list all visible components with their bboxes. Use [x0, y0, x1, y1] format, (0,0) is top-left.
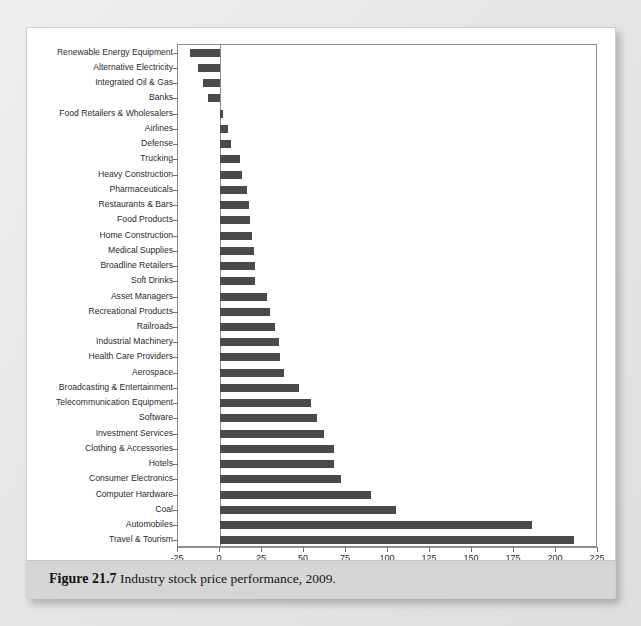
category-label: Recreational Products [88, 306, 173, 316]
category-tick [173, 236, 178, 237]
category-label: Banks [149, 92, 173, 102]
category-label: Computer Hardware [96, 489, 173, 499]
bar-telecommunication-equipment [220, 399, 311, 407]
category-tick [173, 53, 178, 54]
category-label: Broadcasting & Entertainment [59, 382, 173, 392]
x-axis-tick [597, 547, 598, 552]
category-label: Broadline Retailers [100, 260, 173, 270]
category-label: Airlines [145, 123, 173, 133]
category-label: Integrated Oil & Gas [95, 77, 173, 87]
category-label: Hotels [149, 458, 173, 468]
figure-caption-text: Industry stock price performance, 2009. [120, 571, 336, 586]
category-label: Pharmaceuticals [109, 184, 173, 194]
category-tick [173, 297, 178, 298]
category-tick [173, 175, 178, 176]
category-label: Travel & Tourism [109, 534, 173, 544]
caption-band: Figure 21.7 Industry stock price perform… [27, 560, 615, 599]
bar-defense [220, 140, 231, 148]
bar-broadline-retailers [220, 262, 255, 270]
category-label: Railroads [137, 321, 173, 331]
bar-industrial-machinery [220, 338, 279, 346]
category-label: Health Care Providers [88, 351, 173, 361]
x-axis-tick [555, 547, 556, 552]
category-tick [173, 98, 178, 99]
figure-sheet: the performance of the market sectors in… [26, 27, 616, 599]
bar-food-products [220, 216, 250, 224]
category-tick [173, 342, 178, 343]
category-label: Home Construction [99, 230, 173, 240]
category-label: Restaurants & Bars [98, 199, 173, 209]
category-label: Software [139, 412, 173, 422]
bar-investment-services [220, 430, 324, 438]
category-label: Medical Supplies [108, 245, 173, 255]
category-tick [173, 464, 178, 465]
category-tick [173, 418, 178, 419]
category-tick [173, 449, 178, 450]
bar-health-care-providers [220, 353, 280, 361]
bar-renewable-energy-equipment [190, 49, 220, 57]
figure-caption: Figure 21.7 Industry stock price perform… [49, 571, 336, 587]
category-tick [173, 266, 178, 267]
category-tick [173, 479, 178, 480]
category-tick [173, 190, 178, 191]
x-axis-tick [429, 547, 430, 552]
bar-consumer-electronics [220, 475, 341, 483]
category-tick [173, 357, 178, 358]
x-axis-tick [471, 547, 472, 552]
bar-software [220, 414, 317, 422]
x-axis-tick [261, 547, 262, 552]
bar-medical-supplies [220, 247, 254, 255]
category-label: Renewable Energy Equipment [57, 47, 173, 57]
bar-banks [208, 94, 220, 102]
category-tick [173, 205, 178, 206]
category-label: Industrial Machinery [96, 336, 173, 346]
bar-recreational-products [220, 308, 270, 316]
bar-heavy-construction [220, 171, 242, 179]
category-tick [173, 525, 178, 526]
category-tick [173, 327, 178, 328]
category-tick [173, 403, 178, 404]
x-axis-tick [513, 547, 514, 552]
category-tick [173, 144, 178, 145]
category-tick [173, 114, 178, 115]
category-tick [173, 281, 178, 282]
category-tick [173, 510, 178, 511]
category-tick [173, 312, 178, 313]
bar-broadcasting-entertainment [220, 384, 299, 392]
bar-hotels [220, 460, 334, 468]
category-label: Heavy Construction [98, 169, 173, 179]
bar-travel-tourism [220, 536, 574, 544]
x-axis-tick [303, 547, 304, 552]
category-tick [173, 251, 178, 252]
category-label: Soft Drinks [131, 275, 173, 285]
category-label: Clothing & Accessories [85, 443, 173, 453]
bar-coal [220, 506, 396, 514]
bar-trucking [220, 155, 240, 163]
category-tick [173, 159, 178, 160]
bar-integrated-oil-gas [203, 79, 220, 87]
x-axis-tick [387, 547, 388, 552]
category-label: Coal [155, 504, 173, 514]
category-axis-labels: Renewable Energy EquipmentAlternative El… [27, 44, 173, 547]
x-axis-tick [177, 547, 178, 552]
category-label: Automobiles [126, 519, 173, 529]
bar-automobiles [220, 521, 532, 529]
bar-computer-hardware [220, 491, 371, 499]
bar-asset-managers [220, 293, 267, 301]
bar-home-construction [220, 232, 252, 240]
bar-restaurants-bars [220, 201, 249, 209]
x-axis-tick [219, 547, 220, 552]
bar-soft-drinks [220, 277, 255, 285]
bar-pharmaceuticals [220, 186, 247, 194]
category-tick [173, 495, 178, 496]
category-label: Investment Services [96, 428, 173, 438]
bar-food-retailers-wholesalers [220, 110, 223, 118]
category-label: Asset Managers [111, 291, 173, 301]
figure-number: Figure 21.7 [49, 571, 116, 586]
category-label: Telecommunication Equipment [56, 397, 173, 407]
category-tick [173, 83, 178, 84]
category-tick [173, 220, 178, 221]
plot-area [177, 44, 597, 547]
bar-clothing-accessories [220, 445, 334, 453]
bar-airlines [220, 125, 228, 133]
